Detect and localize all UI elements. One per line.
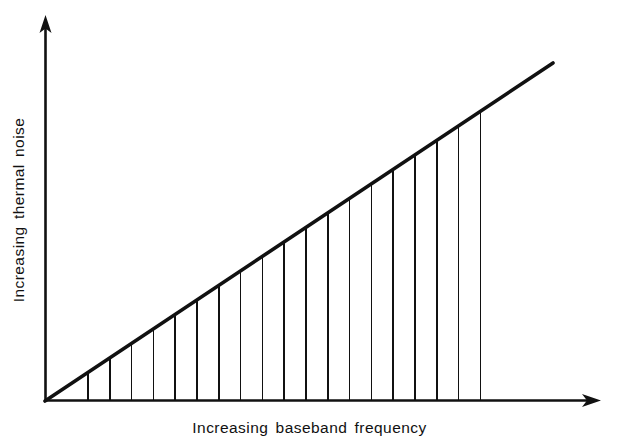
x-axis-label: Increasing baseband frequency [0, 419, 619, 437]
hatch-lines-group [88, 111, 480, 401]
figure-canvas: Increasing thermal noise Increasing base… [0, 0, 619, 446]
chart-plot-area [0, 0, 619, 446]
y-axis-label-container: Increasing thermal noise [4, 18, 34, 401]
y-axis-label: Increasing thermal noise [10, 117, 28, 302]
thermal-noise-trend-line [45, 63, 553, 401]
